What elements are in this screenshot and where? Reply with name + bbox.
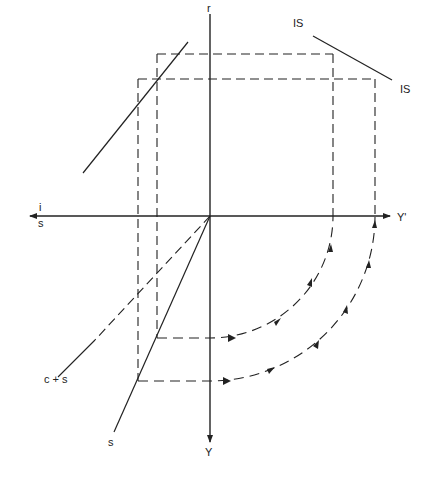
label-s-axis: s	[38, 217, 44, 229]
label-c-plus-s: c + s	[44, 373, 68, 385]
label-is-bottom: IS	[400, 83, 410, 95]
is-curve	[313, 36, 392, 80]
label-r: r	[207, 2, 211, 14]
label-s-line: s	[108, 436, 114, 448]
investment-line	[83, 42, 188, 173]
four-quadrant-diagram: r Y i s Y' IS IS c + s s	[0, 0, 434, 479]
label-y: Y	[205, 446, 213, 458]
arrowheads	[223, 220, 377, 385]
consumption-saving-line	[58, 340, 95, 377]
label-is-top: IS	[293, 17, 303, 29]
label-i: i	[39, 201, 41, 213]
saving-line	[114, 216, 210, 432]
consumption-saving-line-dashed	[95, 216, 210, 340]
label-y-prime: Y'	[397, 211, 406, 223]
